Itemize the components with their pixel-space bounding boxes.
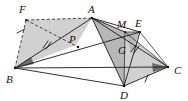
vertex-label-F: F xyxy=(18,3,26,15)
vertex-dot-D xyxy=(123,85,125,87)
vertex-label-M: M xyxy=(116,18,127,30)
vertex-label-D: D xyxy=(119,89,128,101)
geometry-diagram-canvas: F A B C D E M G P xyxy=(0,0,188,101)
vertex-dot-C xyxy=(167,66,169,68)
vertex-label-B: B xyxy=(6,73,13,85)
vertex-label-G: G xyxy=(118,44,126,56)
vertex-dot-M xyxy=(124,31,126,33)
vertex-dot-E xyxy=(139,31,141,33)
vertex-label-C: C xyxy=(174,64,182,76)
vertex-dot-P xyxy=(77,46,79,48)
geometry-figure: F A B C D E M G P xyxy=(0,0,188,101)
vertex-label-E: E xyxy=(134,17,142,29)
vertex-dot-A xyxy=(91,17,93,19)
vertex-dot-B xyxy=(14,67,16,69)
segment-B-D xyxy=(15,68,124,86)
vertex-label-A: A xyxy=(87,3,95,15)
vertex-dot-F xyxy=(25,19,27,21)
vertex-label-P: P xyxy=(68,33,76,45)
